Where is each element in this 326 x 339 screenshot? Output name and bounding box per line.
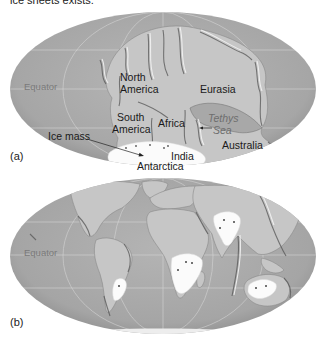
label-eurasia: Eurasia [200, 83, 236, 95]
label-south-america: South [117, 111, 145, 123]
panel-label-a: (a) [10, 150, 23, 162]
label-north-america-2: America [120, 83, 159, 95]
equator-label-b: Equator [24, 247, 57, 258]
label-tethys-sea: Tethys [208, 112, 239, 124]
caption-text: ice sheets exists. [10, 0, 94, 6]
map-b-modern: Equator (b) [0, 176, 326, 339]
label-tethys-sea-2: Sea [213, 124, 232, 136]
label-australia: Australia [222, 139, 263, 151]
label-ice-mass: Ice mass [48, 130, 90, 142]
label-antarctica: Antarctica [137, 160, 184, 172]
panel-label-b: (b) [10, 316, 23, 328]
map-a-pangaea: Equator North America Eurasia South Amer… [0, 10, 326, 172]
label-north-america: North [120, 71, 146, 83]
label-africa: Africa [158, 117, 185, 129]
equator-label-a: Equator [24, 81, 57, 92]
label-south-america-2: America [112, 123, 151, 135]
continent-antarctica [30, 329, 300, 339]
